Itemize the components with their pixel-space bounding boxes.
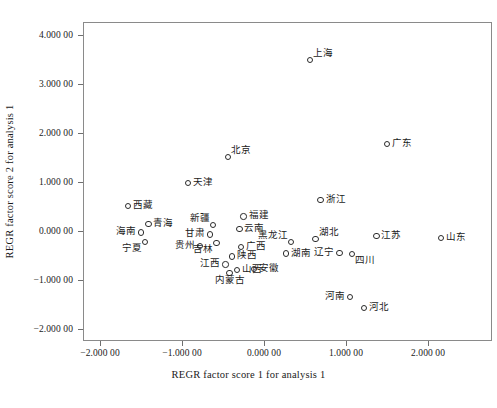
y-axis-title: REGR factor score 2 for analysis 1: [4, 22, 18, 341]
point-label: 内蒙古: [215, 275, 245, 285]
point-label: 贵州: [175, 240, 195, 250]
y-tick-label: −2.000 00: [33, 324, 73, 334]
point-label: 福建: [249, 210, 269, 220]
point-label: 河北: [369, 302, 389, 312]
point-label: 湖南: [291, 248, 311, 258]
point-marker-icon: [240, 213, 246, 219]
point-marker-icon: [207, 231, 213, 237]
point-label: 浙江: [326, 194, 346, 204]
point-label: 天津: [193, 177, 213, 187]
y-tick-label: 3.000 00: [39, 79, 73, 89]
x-tick-mark: [100, 341, 101, 346]
y-tick-label: 0.000 00: [39, 226, 73, 236]
y-tick-mark: [78, 84, 83, 85]
x-tick-mark: [346, 341, 347, 346]
point-marker-icon: [373, 233, 379, 239]
x-tick-label: −1.000 00: [162, 348, 202, 358]
point-label: 青海: [153, 218, 173, 228]
x-tick-mark: [428, 341, 429, 346]
y-tick-mark: [78, 329, 83, 330]
x-tick-label: 1.000 00: [329, 348, 363, 358]
point-label: 江西: [200, 258, 220, 268]
x-tick-label: 0.000 00: [247, 348, 281, 358]
point-label: 安徽: [259, 263, 279, 273]
point-label: 江苏: [381, 230, 401, 240]
point-label: 北京: [231, 145, 251, 155]
y-tick-mark: [78, 280, 83, 281]
point-label: 黑龙江: [258, 230, 288, 240]
x-tick-mark: [264, 341, 265, 346]
point-label: 上海: [313, 48, 333, 58]
x-axis-title: REGR factor score 1 for analysis 1: [0, 369, 497, 380]
point-marker-icon: [384, 141, 390, 147]
point-label: 西藏: [133, 200, 153, 210]
point-marker-icon: [213, 240, 219, 246]
y-tick-label: 4.000 00: [39, 30, 73, 40]
scatter-chart: 4.000 003.000 002.000 001.000 000.000 00…: [0, 0, 497, 408]
y-tick-label: 2.000 00: [39, 128, 73, 138]
x-tick-label: 2.000 00: [411, 348, 445, 358]
y-tick-mark: [78, 231, 83, 232]
point-marker-icon: [229, 253, 235, 259]
point-marker-icon: [197, 243, 203, 249]
point-marker-icon: [145, 221, 151, 227]
point-label: 湖北: [319, 227, 339, 237]
plot-area: [83, 22, 492, 341]
point-marker-icon: [283, 250, 289, 256]
point-marker-icon: [138, 229, 144, 235]
point-label: 辽宁: [314, 247, 334, 257]
point-label: 陕西: [237, 250, 257, 260]
point-label: 宁夏: [122, 243, 142, 253]
point-marker-icon: [336, 250, 342, 256]
point-marker-icon: [317, 197, 323, 203]
point-marker-icon: [236, 226, 242, 232]
point-label: 新疆: [190, 213, 210, 223]
x-tick-label: −2.000 00: [80, 348, 120, 358]
x-tick-mark: [182, 341, 183, 346]
point-label: 广东: [392, 138, 412, 148]
point-marker-icon: [185, 180, 191, 186]
point-label: 四川: [355, 255, 375, 265]
point-label: 山东: [446, 232, 466, 242]
point-label: 河南: [325, 291, 345, 301]
y-tick-label: 1.000 00: [39, 177, 73, 187]
point-label: 甘肃: [185, 228, 205, 238]
point-marker-icon: [222, 261, 228, 267]
y-tick-label: −1.000 00: [33, 275, 73, 285]
point-label: 海南: [116, 226, 136, 236]
y-tick-mark: [78, 182, 83, 183]
y-tick-mark: [78, 35, 83, 36]
y-tick-mark: [78, 133, 83, 134]
